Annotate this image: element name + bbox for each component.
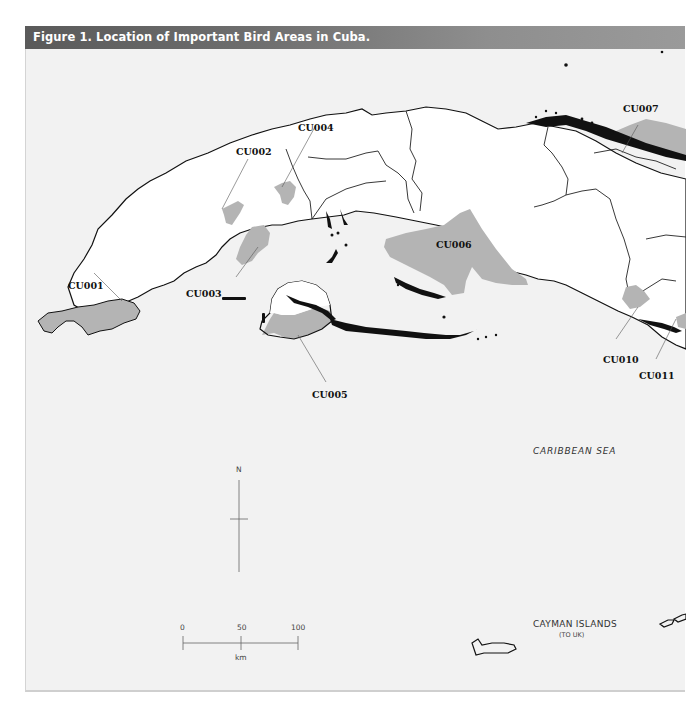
label-caribbean-sea: CARIBBEAN SEA [533, 446, 616, 456]
label-cu010: CU010 [603, 354, 639, 365]
label-cu003: CU003 [186, 288, 222, 299]
figure-title-bar: Figure 1. Location of Important Bird Are… [25, 26, 685, 49]
map-frame: CU001 CU002 CU003 CU004 CU005 CU006 CU00… [25, 49, 685, 692]
label-cu007: CU007 [623, 103, 659, 114]
label-cu004: CU004 [298, 122, 334, 133]
label-cu011: CU011 [639, 370, 675, 381]
label-cu002: CU002 [236, 146, 272, 157]
label-cu005: CU005 [312, 389, 348, 400]
cuba-mainland [68, 107, 686, 349]
label-cayman-sub: (TO UK) [559, 631, 584, 639]
label-cu001: CU001 [68, 280, 104, 291]
grand-cayman [472, 639, 516, 655]
cayman-brac [674, 614, 686, 622]
scale-tick-100: 100 [291, 623, 306, 632]
little-cayman [660, 620, 674, 627]
figure: Figure 1. Location of Important Bird Are… [25, 26, 685, 692]
figure-title: Figure 1. Location of Important Bird Are… [33, 30, 370, 44]
scale-unit: km [235, 653, 247, 662]
scale-bar: 0 50 100 km [180, 623, 306, 662]
label-cayman-islands: CAYMAN ISLANDS [533, 619, 617, 629]
north-arrow: N [230, 465, 248, 572]
cuba-iba-map: CU001 CU002 CU003 CU004 CU005 CU006 CU00… [26, 49, 686, 692]
scale-tick-0: 0 [180, 623, 185, 632]
label-cu006: CU006 [436, 239, 472, 250]
north-arrow-label: N [236, 465, 242, 474]
scale-tick-50: 50 [237, 623, 247, 632]
